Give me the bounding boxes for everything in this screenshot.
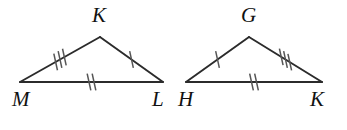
vertex-label-hgk-bottom-left: H (177, 87, 195, 111)
tick-marks-layer (54, 49, 292, 91)
vertex-labels-layer: MKLHGK (11, 3, 325, 111)
triangles-diagram: MKLHGK (0, 0, 347, 130)
vertex-label-mkl-bottom-left: M (11, 87, 31, 111)
vertex-label-hgk-bottom-right: K (309, 87, 325, 111)
vertex-label-mkl-bottom-right: L (151, 87, 164, 111)
triangle-hgk (186, 37, 322, 82)
triangle-mkl (20, 37, 163, 82)
tick-group-gk-3 (279, 49, 291, 71)
tick-group-mk-3 (54, 49, 66, 71)
geometry-figure: MKLHGK (0, 0, 347, 130)
vertex-label-hgk-apex: G (241, 3, 256, 27)
vertex-label-mkl-apex: K (91, 3, 107, 27)
